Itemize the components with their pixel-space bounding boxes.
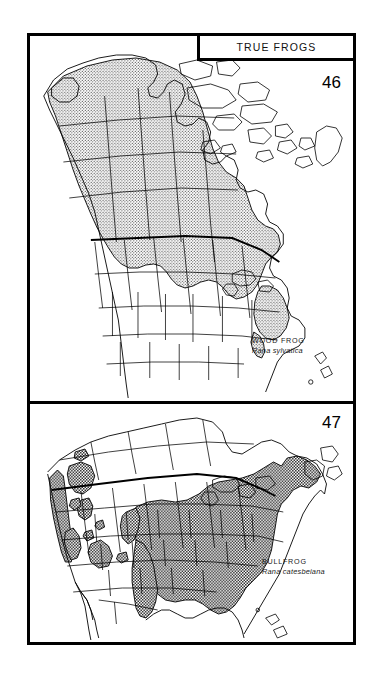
plate-title-text: TRUE FROGS bbox=[237, 41, 317, 53]
species-scientific-name-wood-frog: Rana sylvatica bbox=[252, 346, 305, 356]
range-map-plate: 46 WOOD FROG Rana sylvatica bbox=[27, 33, 356, 645]
species-common-name-wood-frog: WOOD FROG bbox=[252, 336, 305, 346]
map-panel-bullfrog: 47 BULLFROG Rana catesbeiana bbox=[30, 404, 353, 642]
small-islands-bullfrog bbox=[256, 608, 287, 638]
plate-title-box: TRUE FROGS bbox=[197, 33, 356, 61]
species-caption-wood-frog: WOOD FROG Rana sylvatica bbox=[252, 336, 305, 356]
species-common-name-bullfrog: BULLFROG bbox=[262, 557, 325, 567]
plate-number-46: 46 bbox=[320, 74, 343, 91]
north-america-map-bullfrog bbox=[30, 404, 353, 642]
species-caption-bullfrog: BULLFROG Rana catesbeiana bbox=[262, 557, 325, 577]
map-panel-wood-frog: 46 WOOD FROG Rana sylvatica bbox=[30, 36, 353, 401]
greenland-edge bbox=[315, 126, 342, 166]
offshore-islands bbox=[309, 352, 333, 384]
plate-number-47: 47 bbox=[320, 414, 343, 431]
species-scientific-name-bullfrog: Rana catesbeiana bbox=[262, 567, 325, 577]
range-fill-wood-frog bbox=[48, 58, 290, 358]
